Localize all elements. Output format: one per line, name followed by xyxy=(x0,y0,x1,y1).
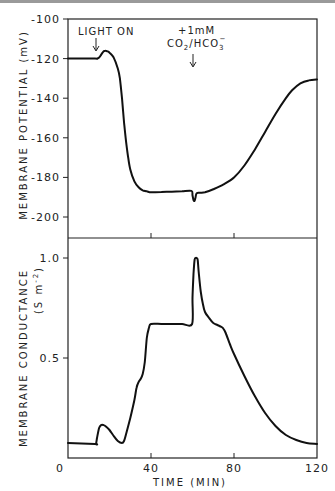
time-axis-label: TIME (MIN) xyxy=(152,477,227,488)
conductance-tick-label: 1.0 xyxy=(40,252,61,265)
potential-y-ticks: -100-120-140-160-180-200 xyxy=(31,13,68,224)
co2-annotation-line1: +1mM xyxy=(178,25,215,36)
conductance-tick-label: 0.5 xyxy=(40,352,61,365)
conductance-axis-label: MEMBRANE CONDUCTANCE xyxy=(18,269,29,447)
potential-tick-label: -100 xyxy=(31,13,60,26)
conductance-unit-label: (S m-2) xyxy=(32,266,44,314)
time-tick-label: 40 xyxy=(143,462,159,475)
time-tick-label: 120 xyxy=(305,462,329,475)
potential-tick-label: -160 xyxy=(31,132,60,145)
potential-tick-label: -120 xyxy=(31,53,60,66)
light-on-annotation: LIGHT ON xyxy=(78,26,134,37)
time-tick-label: 0 xyxy=(56,462,64,475)
membrane-conductance-line xyxy=(68,258,317,445)
figure-canvas: -100-120-140-160-180-200 1.00.5 04080120… xyxy=(0,0,335,491)
potential-axis-label: MEMBRANE POTENTIAL (mV) xyxy=(18,30,29,220)
membrane-potential-line xyxy=(68,51,317,201)
co2-arrow-icon xyxy=(190,54,196,67)
light-on-arrow-icon xyxy=(93,38,99,51)
potential-tick-label: -180 xyxy=(31,171,60,184)
potential-tick-label: -140 xyxy=(31,92,60,105)
time-tick-label: 80 xyxy=(226,462,242,475)
co2-annotation-line2: CO2/HCO3− xyxy=(167,35,226,52)
potential-tick-label: -200 xyxy=(31,211,60,224)
